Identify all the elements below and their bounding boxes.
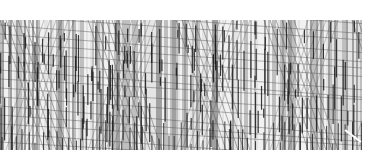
texture-graphic <box>0 20 362 150</box>
texture-pattern <box>0 20 362 150</box>
